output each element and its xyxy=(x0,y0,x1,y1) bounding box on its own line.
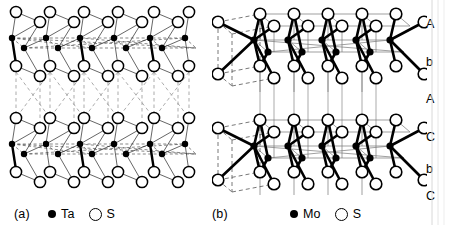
crystal-structure-figure: A b A C b C (a) Ta S (b) Mo S xyxy=(0,0,450,225)
panel-b-slab-upper xyxy=(212,8,427,92)
legend-item-s-b: S xyxy=(335,207,362,221)
legend-label-s-a: S xyxy=(107,207,116,221)
panel-b-slab-lower xyxy=(212,114,427,195)
panel-b-legend: (b) Mo S xyxy=(212,207,375,221)
legend-item-s-a: S xyxy=(89,207,116,221)
legend-label-s-b: S xyxy=(353,207,362,221)
panel-b-label: (b) xyxy=(212,207,246,221)
open-circle-icon xyxy=(89,208,102,221)
panel-a-slab-upper xyxy=(9,6,196,81)
panel-a-structure xyxy=(0,0,215,195)
filled-circle-icon xyxy=(48,210,56,218)
legend-item-ta: Ta xyxy=(48,207,75,221)
panel-a-legend: (a) Ta S xyxy=(14,207,129,221)
filled-circle-icon xyxy=(290,210,298,218)
legend-label-ta: Ta xyxy=(61,207,75,221)
panel-a-slab-lower xyxy=(9,112,196,187)
panel-a-label: (a) xyxy=(14,207,48,221)
legend-item-mo: Mo xyxy=(290,207,321,221)
open-circle-icon xyxy=(335,208,348,221)
panel-b-structure xyxy=(212,0,427,195)
page-edge-scan-lines xyxy=(428,0,450,225)
legend-label-mo: Mo xyxy=(303,207,321,221)
